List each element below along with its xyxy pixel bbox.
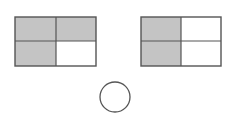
fraction-diagram xyxy=(0,0,226,114)
right-grid-cell-bottom-left xyxy=(141,41,181,66)
right-grid-cell-bottom-right xyxy=(181,41,221,66)
left-grid-cell-bottom-right xyxy=(56,41,96,66)
right-grid-cell-top-right xyxy=(181,17,221,41)
right-grid xyxy=(141,17,221,66)
circle-shape xyxy=(100,82,130,112)
left-grid xyxy=(15,17,96,66)
right-grid-cell-top-left xyxy=(141,17,181,41)
left-grid-cell-top-right xyxy=(56,17,96,41)
left-grid-cell-top-left xyxy=(15,17,56,41)
left-grid-cell-bottom-left xyxy=(15,41,56,66)
